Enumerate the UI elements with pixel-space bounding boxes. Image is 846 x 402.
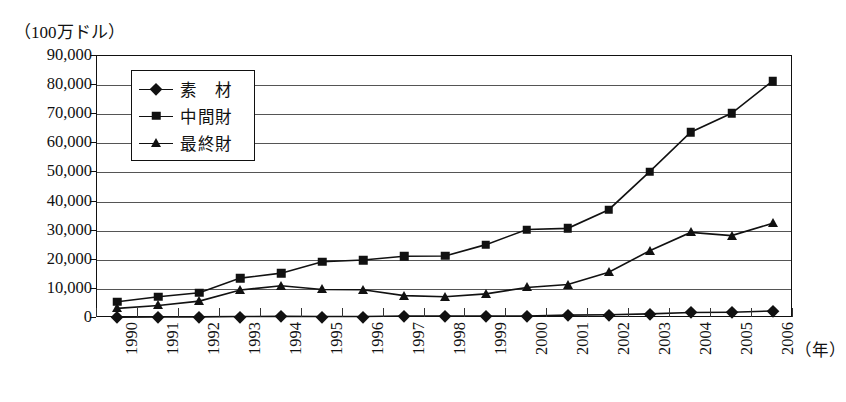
- x-tick-label: 2000: [534, 322, 551, 355]
- data-point-marker: [358, 285, 368, 294]
- data-point-marker: [236, 274, 245, 283]
- legend-marker-square-icon: [139, 109, 173, 123]
- y-tick-label: 50,000: [47, 163, 92, 180]
- data-point-marker: [768, 218, 778, 227]
- data-point-marker: [235, 285, 245, 294]
- data-point-marker: [605, 205, 614, 214]
- x-tick-label: 1996: [370, 322, 387, 355]
- data-point-marker: [277, 269, 286, 278]
- x-tick-mark: [710, 308, 711, 317]
- x-tick-mark: [628, 308, 629, 317]
- legend-label: 素 材: [180, 77, 233, 101]
- data-point-marker: [727, 109, 736, 118]
- x-tick-mark: [751, 308, 752, 317]
- x-tick-label: 2002: [616, 322, 633, 355]
- legend-marker-triangle-icon: [139, 136, 173, 150]
- data-point-marker: [564, 224, 573, 233]
- legend-marker-glyph: [152, 111, 161, 120]
- x-tick-label: 1994: [288, 322, 305, 355]
- legend-item: 最終財: [132, 129, 254, 156]
- x-tick-label: 2004: [698, 322, 715, 355]
- data-point-marker: [400, 252, 409, 261]
- y-tick-mark: [90, 142, 96, 143]
- y-tick-mark: [90, 171, 96, 172]
- y-axis-unit-caption: （100万ドル）: [14, 18, 125, 43]
- data-point-marker: [645, 167, 654, 176]
- x-tick-mark: [546, 308, 547, 317]
- x-tick-mark: [464, 308, 465, 317]
- data-point-marker: [481, 289, 491, 298]
- x-tick-mark: [424, 308, 425, 317]
- x-tick-mark: [587, 308, 588, 317]
- y-tick-label: 60,000: [47, 134, 92, 151]
- y-tick-label: 80,000: [47, 76, 92, 93]
- x-tick-mark: [301, 308, 302, 317]
- x-tick-label: 2003: [657, 322, 674, 355]
- x-tick-label: 2001: [575, 322, 592, 355]
- x-tick-mark: [137, 308, 138, 317]
- chart-container: （100万ドル） 90,00080,00070,00060,00050,0004…: [0, 0, 846, 402]
- x-tick-label: 1995: [329, 322, 346, 355]
- data-point-marker: [153, 301, 163, 310]
- legend-label: 中間財: [180, 104, 233, 128]
- legend-item: 中間財: [132, 102, 254, 129]
- x-tick-mark: [260, 308, 261, 317]
- x-tick-mark: [342, 308, 343, 317]
- y-tick-mark: [90, 288, 96, 289]
- x-tick-label: 2005: [739, 322, 756, 355]
- x-tick-label: 1993: [247, 322, 264, 355]
- y-tick-label: 90,000: [47, 47, 92, 64]
- data-point-marker: [194, 296, 204, 305]
- x-tick-mark: [669, 308, 670, 317]
- x-tick-mark: [505, 308, 506, 317]
- x-axis-unit-caption: （年）: [795, 337, 846, 361]
- y-tick-mark: [90, 84, 96, 85]
- legend-item: 素 材: [132, 75, 254, 102]
- data-point-marker: [686, 227, 696, 236]
- x-tick-label: 2006: [780, 322, 797, 355]
- y-tick-mark: [90, 113, 96, 114]
- data-point-marker: [399, 291, 409, 300]
- x-tick-mark: [219, 308, 220, 317]
- x-tick-label: 1997: [411, 322, 428, 355]
- data-point-marker: [441, 252, 450, 261]
- data-point-marker: [359, 256, 368, 265]
- y-tick-mark: [90, 201, 96, 202]
- x-tick-mark: [792, 308, 793, 317]
- y-tick-label: 30,000: [47, 221, 92, 238]
- data-point-marker: [768, 77, 777, 86]
- x-tick-mark: [383, 308, 384, 317]
- data-point-marker: [440, 292, 450, 301]
- data-point-marker: [645, 246, 655, 255]
- x-tick-mark: [178, 308, 179, 317]
- legend-label: 最終財: [180, 131, 233, 155]
- x-tick-mark: [96, 308, 97, 317]
- legend-marker-diamond-icon: [139, 82, 173, 96]
- data-point-marker: [727, 231, 737, 240]
- data-point-marker: [318, 258, 327, 267]
- data-point-marker: [563, 280, 573, 289]
- y-tick-mark: [90, 317, 96, 318]
- y-tick-mark: [90, 55, 96, 56]
- x-tick-label: 1998: [452, 322, 469, 355]
- x-tick-label: 1999: [493, 322, 510, 355]
- chart-legend: 素 材中間財最終財: [131, 70, 255, 161]
- y-tick-label: 20,000: [47, 251, 92, 268]
- x-tick-label: 1990: [124, 322, 141, 355]
- data-point-marker: [317, 285, 327, 294]
- x-tick-label: 1991: [165, 322, 182, 355]
- data-point-marker: [112, 303, 122, 312]
- y-tick-mark: [90, 259, 96, 260]
- y-tick-label: 40,000: [47, 192, 92, 209]
- data-point-marker: [686, 128, 695, 137]
- data-point-marker: [523, 225, 532, 234]
- legend-marker-glyph: [151, 138, 161, 147]
- legend-marker-glyph: [150, 82, 162, 94]
- data-point-marker: [604, 267, 614, 276]
- x-tick-label: 1992: [206, 322, 223, 355]
- data-point-marker: [276, 281, 286, 290]
- y-tick-label: 70,000: [47, 105, 92, 122]
- y-tick-mark: [90, 230, 96, 231]
- data-point-marker: [482, 240, 491, 249]
- data-point-marker: [522, 282, 532, 291]
